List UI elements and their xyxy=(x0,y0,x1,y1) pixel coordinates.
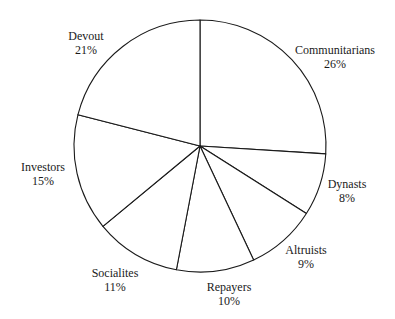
label-pct: 8% xyxy=(339,191,355,205)
label-name: Devout xyxy=(68,29,104,43)
label-pct: 26% xyxy=(324,57,346,71)
label-pct: 9% xyxy=(298,257,314,271)
label-pct: 10% xyxy=(218,294,240,308)
label-altruists: Altruists9% xyxy=(285,243,327,271)
label-socialites: Socialites11% xyxy=(92,266,139,294)
label-repayers: Repayers10% xyxy=(207,280,252,308)
pie-slice-communitarians xyxy=(200,20,326,154)
label-name: Repayers xyxy=(207,280,252,294)
label-dynasts: Dynasts8% xyxy=(328,177,367,205)
label-pct: 11% xyxy=(104,280,126,294)
label-investors: Investors15% xyxy=(21,160,65,188)
label-devout: Devout21% xyxy=(68,29,104,57)
label-pct: 21% xyxy=(75,43,97,57)
label-name: Dynasts xyxy=(328,177,367,191)
label-pct: 15% xyxy=(32,174,54,188)
label-communitarians: Communitarians26% xyxy=(295,43,375,71)
pie-chart: Communitarians26% Dynasts8% Altruists9% … xyxy=(0,0,395,319)
pie-slices xyxy=(74,20,326,272)
label-name: Communitarians xyxy=(295,43,375,57)
label-name: Socialites xyxy=(92,266,139,280)
label-name: Investors xyxy=(21,160,65,174)
label-name: Altruists xyxy=(285,243,327,257)
